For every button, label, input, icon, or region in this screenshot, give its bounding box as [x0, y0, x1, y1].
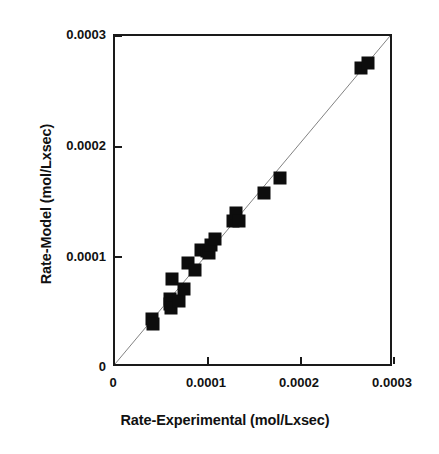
scatter-chart-figure: Rate-Model (mol/Lxsec) Rate-Experimental… [0, 0, 439, 454]
x-axis-title: Rate-Experimental (mol/Lxsec) [60, 412, 390, 428]
y-axis-tick [115, 146, 122, 148]
x-axis-tick [207, 357, 209, 364]
y-tick-label-0.0001: 0.0001 [11, 249, 106, 264]
data-point-marker [165, 272, 178, 285]
data-point-marker [172, 295, 185, 308]
x-axis-tick [300, 357, 302, 364]
data-point-marker [209, 233, 222, 246]
data-point-marker [361, 56, 374, 69]
x-tick-label-0.0001: 0.0001 [176, 375, 236, 390]
data-point-marker [232, 215, 245, 228]
y-axis-title: Rate-Model (mol/Lxsec) [38, 54, 54, 354]
y-axis-tick [115, 256, 122, 258]
x-tick-label-0: 0 [83, 375, 143, 390]
data-point-marker [177, 282, 190, 295]
data-point-marker [258, 187, 271, 200]
x-tick-label-0.0003: 0.0003 [362, 375, 422, 390]
y-tick-label-0.0002: 0.0002 [11, 138, 106, 153]
x-tick-label-0.0002: 0.0002 [269, 375, 329, 390]
x-axis-tick [393, 357, 395, 364]
data-point-marker [274, 171, 287, 184]
data-point-marker [146, 318, 159, 331]
plot-area [113, 34, 392, 366]
y-tick-label-0.0003: 0.0003 [11, 27, 106, 42]
y-axis-tick [115, 35, 122, 37]
y-tick-label-0: 0 [11, 359, 106, 374]
data-point-marker [188, 264, 201, 277]
